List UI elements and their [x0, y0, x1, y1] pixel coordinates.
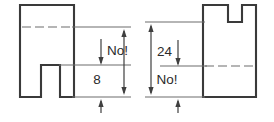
left-part-view [20, 5, 74, 97]
right-inner-arrow-down-icon [175, 58, 180, 66]
left-overall-dimension [121, 29, 126, 95]
left-bottom-tick [98, 99, 103, 113]
right-part-outline [203, 5, 256, 97]
right-part-view [203, 5, 256, 97]
left-upper-arrow-down-icon [98, 57, 103, 65]
left-overall-arrow-down-icon [121, 87, 126, 95]
left-lower-dimension: 8 [93, 72, 101, 87]
drawing-svg: No! 8 24 [0, 0, 274, 122]
right-overall-arrow-up-icon [148, 24, 153, 32]
right-bottom-tick [175, 99, 180, 113]
right-overall-dimension-label: 24 [157, 44, 173, 59]
left-part-outline [20, 5, 74, 97]
technical-drawing-canvas: No! 8 24 [0, 0, 274, 122]
left-lower-dimension-label: 8 [93, 72, 101, 87]
right-overall-arrow-down-icon [148, 87, 153, 95]
left-upper-dimension-label: No! [107, 43, 128, 58]
right-bottom-arrow-up-icon [175, 99, 180, 107]
left-bottom-arrow-up-icon [98, 99, 103, 107]
left-overall-arrow-up-icon [121, 29, 126, 37]
right-inner-dimension-label: No! [156, 72, 177, 87]
